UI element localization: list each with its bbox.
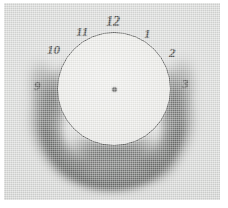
scanned-plate: 10 11 12 1 2 9 3 bbox=[4, 3, 220, 200]
figure-root: 10 11 12 1 2 9 3 bbox=[0, 0, 228, 208]
hour-label-9: 9 bbox=[34, 79, 41, 92]
hour-label-3: 3 bbox=[182, 77, 189, 90]
hour-label-10: 10 bbox=[47, 43, 60, 56]
dial-centre-dot bbox=[112, 87, 117, 92]
hour-label-2: 2 bbox=[169, 46, 176, 59]
hour-label-12: 12 bbox=[106, 15, 120, 29]
smudge-tail bbox=[80, 155, 152, 189]
hour-label-1: 1 bbox=[144, 27, 151, 40]
hour-label-11: 11 bbox=[76, 25, 88, 38]
